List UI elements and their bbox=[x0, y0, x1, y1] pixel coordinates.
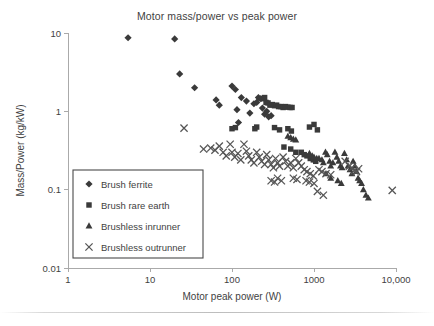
x-tick-label: 1 bbox=[65, 274, 70, 285]
data-point bbox=[243, 98, 250, 105]
y-tick-label: 1 bbox=[56, 106, 61, 117]
legend-marker-square bbox=[86, 202, 91, 207]
data-point bbox=[360, 186, 367, 192]
data-point bbox=[289, 105, 294, 110]
data-point bbox=[216, 142, 223, 149]
data-point bbox=[274, 175, 281, 182]
data-point bbox=[191, 84, 198, 91]
scatter-plot: 110100100010,000Motor peak power (W)0.01… bbox=[0, 0, 434, 326]
data-point bbox=[254, 124, 259, 129]
data-point bbox=[171, 35, 178, 42]
y-tick-label: 10 bbox=[50, 28, 61, 39]
legend-label: Brush ferrite bbox=[101, 179, 153, 190]
data-point bbox=[331, 149, 338, 155]
y-tick-label: 0.01 bbox=[43, 263, 62, 274]
data-point bbox=[315, 127, 320, 132]
data-point bbox=[311, 122, 316, 127]
data-point bbox=[389, 187, 396, 194]
x-tick-label: 1000 bbox=[303, 274, 324, 285]
data-point bbox=[341, 150, 348, 156]
chart-legend: Brush ferriteBrush rare earthBrushless i… bbox=[73, 170, 203, 258]
data-point bbox=[200, 145, 207, 152]
data-point bbox=[234, 150, 241, 157]
data-point bbox=[238, 94, 245, 101]
series-brushless-inrunner bbox=[284, 133, 371, 201]
data-point bbox=[233, 125, 238, 130]
legend-label: Brush rare earth bbox=[101, 200, 170, 211]
data-point bbox=[314, 188, 321, 195]
x-axis-title: Motor peak power (W) bbox=[183, 291, 282, 302]
data-point bbox=[180, 125, 187, 132]
data-point bbox=[240, 141, 247, 148]
data-point bbox=[288, 146, 293, 151]
series-brush-ferrite bbox=[124, 34, 274, 126]
data-point bbox=[276, 162, 283, 169]
data-point bbox=[292, 155, 299, 162]
data-point bbox=[272, 125, 277, 130]
series-brush-rare-earth bbox=[229, 95, 320, 164]
x-tick-label: 10,000 bbox=[381, 274, 410, 285]
data-point bbox=[233, 106, 240, 113]
x-tick-label: 100 bbox=[224, 274, 240, 285]
data-point bbox=[227, 141, 234, 148]
data-point bbox=[281, 144, 286, 149]
data-point bbox=[320, 192, 327, 199]
page-divider bbox=[0, 312, 434, 313]
x-tick-label: 10 bbox=[145, 274, 156, 285]
data-point bbox=[262, 95, 267, 100]
data-point bbox=[293, 150, 298, 155]
y-axis-title: Mass/Power (kg/kW) bbox=[15, 104, 26, 196]
data-point bbox=[124, 34, 131, 41]
data-point bbox=[289, 128, 294, 133]
legend-label: Brushless inrunner bbox=[101, 221, 180, 232]
data-point bbox=[176, 70, 183, 77]
data-point bbox=[278, 177, 285, 184]
data-point bbox=[246, 109, 253, 116]
y-tick-label: 0.1 bbox=[48, 184, 61, 195]
legend-label: Brushless outrunner bbox=[101, 242, 186, 253]
chart-figure: Motor mass/power vs peak power 110100100… bbox=[0, 0, 434, 326]
data-point bbox=[277, 127, 282, 132]
